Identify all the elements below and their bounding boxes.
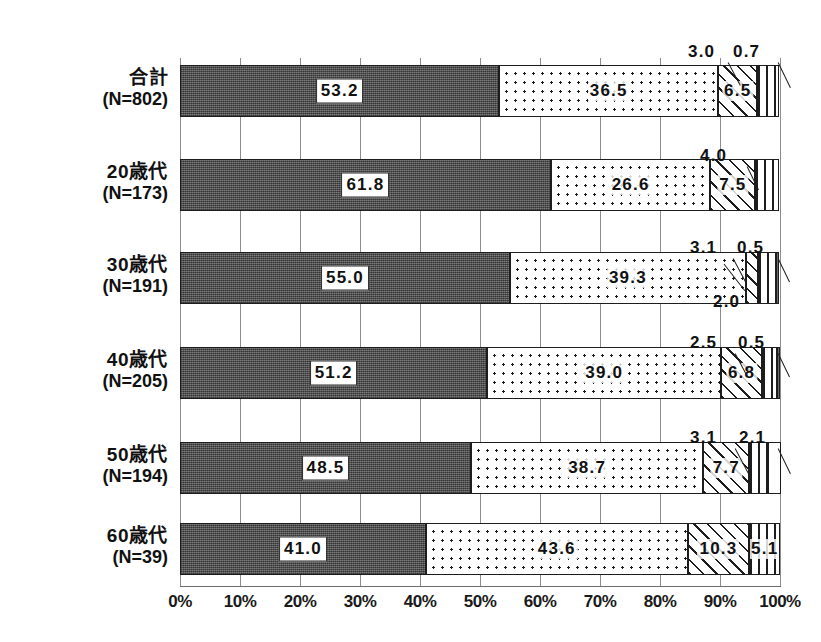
x-tick-70: 70% bbox=[572, 592, 628, 612]
stacked-bar-chart: 53.236.56.561.826.67.555.039.351.239.06.… bbox=[0, 0, 821, 642]
category-name: 合計 bbox=[0, 67, 168, 89]
segment-value-label: 53.2 bbox=[316, 79, 364, 104]
gridline-0 bbox=[180, 58, 181, 586]
bar-segment: 10.3 bbox=[688, 523, 750, 575]
gridline-100 bbox=[780, 58, 781, 586]
bar-segment: 51.2 bbox=[180, 347, 487, 399]
category-sample-size: (N=802) bbox=[0, 89, 168, 110]
category-sample-size: (N=205) bbox=[0, 371, 168, 392]
category-label-5: 50歳代(N=194) bbox=[0, 444, 168, 488]
gridline-50 bbox=[480, 58, 481, 586]
category-label-4: 40歳代(N=205) bbox=[0, 349, 168, 393]
x-axis-line bbox=[180, 586, 781, 587]
callout-value-label: 0.7 bbox=[733, 42, 760, 62]
category-sample-size: (N=194) bbox=[0, 466, 168, 487]
callout-value-label: 2.0 bbox=[713, 292, 740, 312]
x-tick-80: 80% bbox=[632, 592, 688, 612]
callout-value-label: 0.5 bbox=[738, 333, 765, 353]
segment-value-label: 36.5 bbox=[588, 81, 630, 101]
segment-value-label: 39.0 bbox=[583, 363, 625, 383]
callout-value-label: 3.1 bbox=[690, 238, 717, 258]
gridline-40 bbox=[420, 58, 421, 586]
bar-segment bbox=[775, 65, 779, 117]
bar-segment: 48.5 bbox=[180, 442, 471, 494]
callout-value-label: 4.0 bbox=[700, 146, 727, 166]
category-name: 50歳代 bbox=[0, 444, 168, 466]
bar-segment bbox=[757, 65, 775, 117]
bar-segment: 6.5 bbox=[718, 65, 757, 117]
bar-segment: 5.1 bbox=[749, 523, 780, 575]
bar-segment: 39.3 bbox=[510, 252, 746, 304]
segment-value-label: 26.6 bbox=[610, 175, 652, 195]
x-tick-10: 10% bbox=[212, 592, 268, 612]
gridline-20 bbox=[300, 58, 301, 586]
callout-value-label: 0.5 bbox=[737, 238, 764, 258]
bar-segment bbox=[758, 252, 777, 304]
gridline-60 bbox=[540, 58, 541, 586]
bar-segment: 38.7 bbox=[471, 442, 703, 494]
category-label-3: 30歳代(N=191) bbox=[0, 254, 168, 298]
segment-value-label: 51.2 bbox=[310, 361, 358, 386]
segment-value-label: 48.5 bbox=[302, 456, 350, 481]
x-tick-60: 60% bbox=[512, 592, 568, 612]
x-tick-50: 50% bbox=[452, 592, 508, 612]
segment-value-label: 38.7 bbox=[566, 458, 608, 478]
segment-value-label: 43.6 bbox=[536, 539, 578, 559]
segment-value-label: 55.0 bbox=[321, 266, 369, 291]
category-sample-size: (N=39) bbox=[0, 547, 168, 568]
bar-segment: 43.6 bbox=[426, 523, 688, 575]
category-label-1: 合計(N=802) bbox=[0, 67, 168, 111]
x-tick-0: 0% bbox=[152, 592, 208, 612]
bar-segment: 39.0 bbox=[487, 347, 721, 399]
category-sample-size: (N=191) bbox=[0, 276, 168, 297]
x-tick-90: 90% bbox=[692, 592, 748, 612]
category-name: 20歳代 bbox=[0, 161, 168, 183]
gridline-10 bbox=[240, 58, 241, 586]
bar-segment: 7.7 bbox=[703, 442, 749, 494]
callout-value-label: 3.0 bbox=[688, 42, 715, 62]
bar-segment: 26.6 bbox=[551, 159, 711, 211]
category-label-6: 60歳代(N=39) bbox=[0, 525, 168, 569]
callout-value-label: 2.5 bbox=[690, 333, 717, 353]
gridline-30 bbox=[360, 58, 361, 586]
gridline-70 bbox=[600, 58, 601, 586]
bar-segment: 53.2 bbox=[180, 65, 499, 117]
x-tick-30: 30% bbox=[332, 592, 388, 612]
category-sample-size: (N=173) bbox=[0, 183, 168, 204]
segment-value-label: 5.1 bbox=[749, 539, 780, 559]
bar-segment: 41.0 bbox=[180, 523, 426, 575]
gridline-80 bbox=[660, 58, 661, 586]
x-tick-100: 100% bbox=[752, 592, 808, 612]
segment-value-label: 7.5 bbox=[717, 175, 748, 195]
segment-value-label: 7.7 bbox=[711, 458, 742, 478]
callout-value-label: 2.1 bbox=[739, 428, 766, 448]
segment-value-label: 10.3 bbox=[698, 539, 740, 559]
bar-segment: 61.8 bbox=[180, 159, 551, 211]
bar-segment: 55.0 bbox=[180, 252, 510, 304]
segment-value-label: 41.0 bbox=[279, 537, 327, 562]
bar-segment bbox=[755, 159, 779, 211]
segment-value-label: 61.8 bbox=[341, 173, 389, 198]
bar-segment: 6.8 bbox=[721, 347, 762, 399]
bar-segment bbox=[762, 347, 777, 399]
x-tick-20: 20% bbox=[272, 592, 328, 612]
bar-segment: 36.5 bbox=[499, 65, 718, 117]
bar-segment bbox=[746, 252, 758, 304]
bar-segment bbox=[749, 442, 768, 494]
category-name: 30歳代 bbox=[0, 254, 168, 276]
callout-value-label: 3.1 bbox=[690, 428, 717, 448]
segment-value-label: 39.3 bbox=[607, 268, 649, 288]
category-name: 40歳代 bbox=[0, 349, 168, 371]
category-label-2: 20歳代(N=173) bbox=[0, 161, 168, 205]
x-tick-40: 40% bbox=[392, 592, 448, 612]
bar-segment: 7.5 bbox=[710, 159, 755, 211]
gridline-90 bbox=[720, 58, 721, 586]
category-name: 60歳代 bbox=[0, 525, 168, 547]
